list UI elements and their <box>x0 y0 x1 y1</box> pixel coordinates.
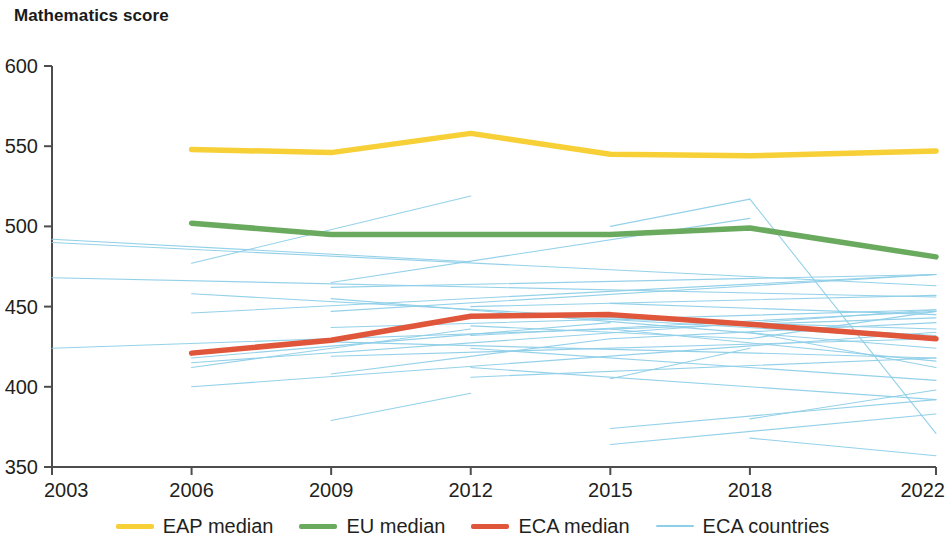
eca-country-line <box>750 390 936 419</box>
x-axis-tick-label: 2015 <box>588 479 633 501</box>
y-axis-tick-label: 550 <box>5 135 38 157</box>
legend-label: ECA median <box>518 515 629 538</box>
eca-country-line <box>331 393 471 420</box>
x-axis-tick-label: 2018 <box>728 479 773 501</box>
x-axis-tick-label: 2012 <box>448 479 493 501</box>
y-axis-tick-label: 450 <box>5 296 38 318</box>
legend-swatch-icon <box>116 524 154 529</box>
chart-plot-area: 3504004505005506002003200620092012201520… <box>0 0 945 510</box>
x-axis-tick-label: 2006 <box>169 479 214 501</box>
eca-country-line <box>331 339 936 357</box>
legend-swatch-icon <box>471 524 509 529</box>
eca-country-line <box>471 295 936 306</box>
legend-item-eu-median[interactable]: EU median <box>299 515 445 538</box>
y-axis-tick-label: 400 <box>5 376 38 398</box>
chart-legend: EAP medianEU medianECA medianECA countri… <box>0 508 945 544</box>
legend-label: EU median <box>346 515 445 538</box>
x-axis-tick-label: 2009 <box>309 479 354 501</box>
eca-country-line <box>610 303 936 314</box>
eca-country-line <box>610 400 936 429</box>
legend-item-eca-countries[interactable]: ECA countries <box>656 515 830 538</box>
eca-country-line <box>52 242 936 285</box>
eca-country-line <box>471 368 936 400</box>
eca-country-line <box>331 339 610 374</box>
eca-country-line <box>192 196 471 263</box>
y-axis-tick-label: 350 <box>5 456 38 478</box>
eca-country-line <box>471 348 936 380</box>
eca-country-line <box>52 278 936 297</box>
eca-country-line <box>331 275 936 312</box>
eca-country-line <box>192 275 936 313</box>
eca-country-line <box>610 348 750 378</box>
legend-label: ECA countries <box>703 515 830 538</box>
y-axis-tick-label: 600 <box>5 55 38 77</box>
eca-country-line <box>331 218 750 282</box>
legend-item-eca-median[interactable]: ECA median <box>471 515 629 538</box>
legend-swatch-icon <box>299 524 337 529</box>
mathematics-score-chart: Mathematics score 3504004505005506002003… <box>0 0 945 544</box>
x-axis-tick-label: 2003 <box>44 479 89 501</box>
y-axis-tick-label: 500 <box>5 215 38 237</box>
series-line-eap-median <box>192 133 936 155</box>
x-axis-tick-label: 2022 <box>901 479 945 501</box>
legend-item-eap-median[interactable]: EAP median <box>116 515 274 538</box>
eca-country-line <box>610 199 750 226</box>
eca-country-line <box>750 438 936 456</box>
legend-label: EAP median <box>163 515 274 538</box>
legend-swatch-icon <box>656 525 694 527</box>
eca-country-line <box>52 239 471 261</box>
series-line-eu-median <box>192 223 936 257</box>
